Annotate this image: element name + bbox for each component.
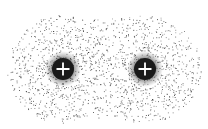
electron-cloud-diagram — [0, 0, 208, 129]
nucleus-right — [127, 51, 163, 87]
nuclei-group — [45, 51, 163, 87]
electron-cloud — [7, 15, 201, 123]
diagram-canvas — [0, 0, 208, 129]
nucleus-left — [45, 51, 81, 87]
